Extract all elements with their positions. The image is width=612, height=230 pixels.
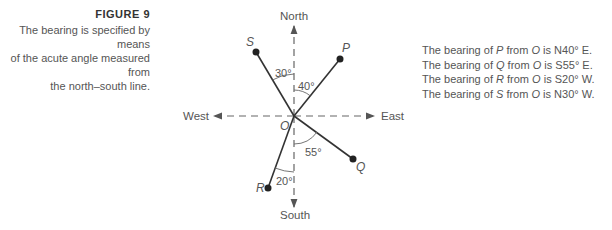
west-label: West: [183, 110, 210, 122]
point-r: [265, 185, 272, 192]
bearing-list: The bearing of P from O is N40° E. The b…: [422, 43, 595, 101]
arc-q: [294, 132, 317, 144]
bearing-q: The bearing of Q from O is S55° E.: [422, 58, 595, 73]
ray-s: [256, 52, 294, 116]
angle-q: 55°: [305, 146, 322, 158]
east-label: East: [381, 110, 405, 122]
south-label: South: [280, 209, 310, 221]
bearing-s: The bearing of S from O is N30° W.: [422, 87, 595, 102]
north-label: North: [280, 10, 308, 22]
origin-label: O: [280, 119, 289, 133]
bearing-r: The bearing of R from O is S20° W.: [422, 72, 595, 87]
bearing-p: The bearing of P from O is N40° E.: [422, 43, 595, 58]
label-q: Q: [356, 160, 365, 174]
angle-r: 20°: [276, 175, 293, 187]
label-r: R: [256, 181, 265, 195]
ray-q: [294, 116, 353, 159]
angle-s: 30°: [275, 67, 292, 79]
point-p: [337, 56, 344, 63]
angle-p: 40°: [298, 80, 315, 92]
bearing-diagram: North South East West O S P Q R 30° 40° …: [0, 0, 612, 230]
point-s: [253, 49, 260, 56]
label-p: P: [342, 41, 350, 55]
arc-r: [275, 168, 294, 172]
label-s: S: [246, 35, 254, 49]
